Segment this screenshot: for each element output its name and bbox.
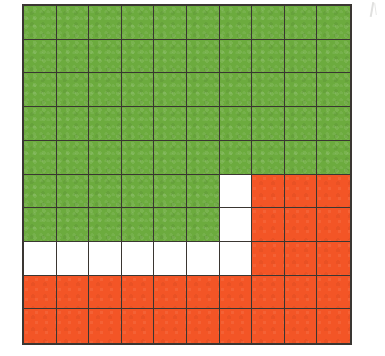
grid-cell bbox=[24, 276, 57, 310]
grid-cell bbox=[220, 6, 253, 40]
grid-cell bbox=[24, 107, 57, 141]
grid-cell bbox=[285, 175, 318, 209]
grid-cell bbox=[285, 107, 318, 141]
grid-cell bbox=[122, 208, 155, 242]
grid-cell bbox=[285, 73, 318, 107]
grid-cell bbox=[285, 208, 318, 242]
grid-cell bbox=[154, 107, 187, 141]
grid-cell bbox=[24, 40, 57, 74]
grid-cell bbox=[57, 276, 90, 310]
grid-cell bbox=[57, 309, 90, 343]
grid-cell bbox=[154, 6, 187, 40]
grid-cell bbox=[89, 73, 122, 107]
grid-cell bbox=[24, 242, 57, 276]
scan-artifact-mark bbox=[369, 2, 379, 18]
grid-cell bbox=[252, 242, 285, 276]
grid-cell bbox=[122, 141, 155, 175]
grid-cell bbox=[252, 40, 285, 74]
grid-cell bbox=[220, 208, 253, 242]
grid-cell bbox=[57, 40, 90, 74]
grid-cell bbox=[57, 141, 90, 175]
grid-cell bbox=[89, 276, 122, 310]
grid-cell bbox=[187, 141, 220, 175]
grid-cell bbox=[24, 309, 57, 343]
grid-cell bbox=[187, 208, 220, 242]
grid-cell bbox=[122, 73, 155, 107]
grid-cell bbox=[317, 309, 350, 343]
grid-cell bbox=[285, 141, 318, 175]
grid-cell bbox=[154, 276, 187, 310]
grid-cell bbox=[24, 208, 57, 242]
grid-cell bbox=[220, 276, 253, 310]
grid-cell bbox=[24, 141, 57, 175]
grid-cell bbox=[24, 6, 57, 40]
grid-cell bbox=[57, 242, 90, 276]
grid-cell bbox=[154, 309, 187, 343]
grid-cell bbox=[57, 107, 90, 141]
grid-cell bbox=[252, 276, 285, 310]
grid-cell bbox=[89, 242, 122, 276]
scan-artifact-stroke-2 bbox=[374, 3, 377, 15]
grid-cell bbox=[317, 242, 350, 276]
grid-cell bbox=[24, 175, 57, 209]
grid-cell bbox=[252, 6, 285, 40]
grid-cell bbox=[89, 107, 122, 141]
grid-cell bbox=[285, 309, 318, 343]
grid-cell bbox=[285, 40, 318, 74]
grid-cell bbox=[220, 73, 253, 107]
grid-cell bbox=[220, 242, 253, 276]
grid-cell bbox=[252, 73, 285, 107]
scan-artifact-stroke-1 bbox=[370, 2, 374, 17]
grid-cell bbox=[89, 309, 122, 343]
grid-cell bbox=[154, 73, 187, 107]
grid-cell bbox=[154, 40, 187, 74]
grid-cell bbox=[122, 242, 155, 276]
grid-cells bbox=[24, 6, 350, 343]
grid-cell bbox=[57, 73, 90, 107]
grid-cell bbox=[122, 107, 155, 141]
grid-cell bbox=[89, 208, 122, 242]
grid-cell bbox=[57, 175, 90, 209]
grid-cell bbox=[187, 175, 220, 209]
grid-cell bbox=[122, 175, 155, 209]
grid-cell bbox=[154, 175, 187, 209]
grid-cell bbox=[252, 107, 285, 141]
grid-cell bbox=[285, 276, 318, 310]
grid-cell bbox=[252, 141, 285, 175]
grid-cell bbox=[187, 242, 220, 276]
grid-cell bbox=[317, 73, 350, 107]
grid-cell bbox=[252, 309, 285, 343]
grid-cell bbox=[187, 276, 220, 310]
grid-cell bbox=[89, 141, 122, 175]
grid-cell bbox=[317, 276, 350, 310]
grid-cell bbox=[317, 6, 350, 40]
grid-cell bbox=[154, 141, 187, 175]
grid-cell bbox=[220, 175, 253, 209]
grid-cell bbox=[57, 208, 90, 242]
grid-cell bbox=[89, 40, 122, 74]
grid-cell bbox=[154, 242, 187, 276]
grid-cell bbox=[187, 6, 220, 40]
grid-cell bbox=[154, 208, 187, 242]
grid-area-model bbox=[22, 4, 352, 345]
grid-cell bbox=[187, 73, 220, 107]
grid-cell bbox=[317, 175, 350, 209]
grid-cell bbox=[220, 40, 253, 74]
grid-cell bbox=[57, 6, 90, 40]
grid-cell bbox=[122, 276, 155, 310]
grid-cell bbox=[220, 107, 253, 141]
grid-cell bbox=[317, 141, 350, 175]
grid-cell bbox=[317, 107, 350, 141]
grid-cell bbox=[220, 309, 253, 343]
grid-cell bbox=[317, 208, 350, 242]
grid-cell bbox=[252, 208, 285, 242]
grid-cell bbox=[285, 6, 318, 40]
grid-cell bbox=[317, 40, 350, 74]
grid-cell bbox=[122, 309, 155, 343]
grid-cell bbox=[89, 175, 122, 209]
grid-cell bbox=[252, 175, 285, 209]
grid-cell bbox=[24, 73, 57, 107]
grid-cell bbox=[89, 6, 122, 40]
grid-cell bbox=[220, 141, 253, 175]
grid-cell bbox=[187, 107, 220, 141]
